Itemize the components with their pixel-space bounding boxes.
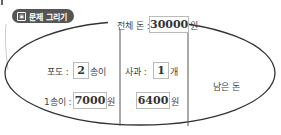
grape-price-label: 1송이 :: [44, 95, 72, 108]
section-header-label: 문제 그리기: [29, 11, 67, 22]
total-label: 전체 돈 :: [117, 19, 150, 32]
picture-icon: ▣: [17, 12, 26, 21]
grape-count-label: 포도 :: [47, 65, 69, 78]
grape-price-box: 7000: [73, 92, 107, 109]
section-header-pill: ▣ 문제 그리기: [12, 9, 74, 23]
total-unit: 원: [190, 19, 198, 32]
grape-count-box: 2: [73, 62, 89, 79]
apple-price-box: 6400: [136, 92, 170, 109]
apple-price-unit: 원: [171, 95, 179, 108]
apple-count-unit: 개: [170, 65, 178, 78]
grape-price-unit: 원: [107, 95, 115, 108]
total-value-box: 30000: [149, 16, 189, 33]
apple-count-box: 1: [153, 62, 169, 79]
apple-count-label: 사과 :: [125, 65, 147, 78]
grape-count-unit: 송이: [90, 65, 106, 78]
remaining-money-label: 남은 돈: [213, 80, 240, 93]
